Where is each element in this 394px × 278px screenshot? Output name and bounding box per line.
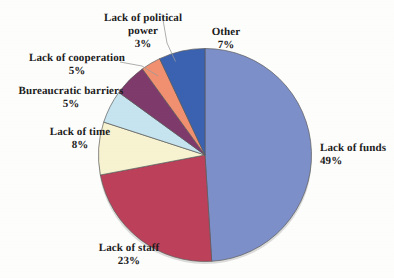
pie-slice-lack-of-funds[interactable] — [205, 49, 312, 262]
pie-chart: Lack of political power 3% Other 7% Lack… — [0, 0, 394, 278]
slice-value-time: 8% — [30, 139, 130, 152]
slice-label-funds: Lack of funds 49% — [320, 142, 394, 168]
slice-value-political-power: 3% — [88, 38, 198, 51]
pie-slices-group — [99, 49, 312, 262]
slice-value-funds: 49% — [320, 155, 394, 168]
slice-label-cooperation: Lack of cooperation 5% — [18, 52, 136, 78]
slice-label-political-power: Lack of political power 3% — [88, 12, 198, 51]
slice-value-cooperation: 5% — [18, 65, 136, 78]
slice-label-bureaucratic-barriers: Bureaucratic barriers 5% — [6, 85, 136, 111]
slice-label-political-power-line2: power — [128, 25, 158, 37]
slice-label-time-text: Lack of time — [50, 126, 110, 138]
slice-label-funds-text: Lack of funds — [320, 142, 386, 154]
slice-label-staff: Lack of staff 23% — [74, 242, 184, 268]
slice-label-other-text: Other — [212, 26, 241, 38]
slice-value-other: 7% — [196, 39, 256, 52]
slice-label-bureaucratic-barriers-text: Bureaucratic barriers — [19, 85, 124, 97]
slice-label-cooperation-text: Lack of cooperation — [29, 52, 125, 64]
slice-value-staff: 23% — [74, 255, 184, 268]
slice-label-other: Other 7% — [196, 26, 256, 52]
slice-value-bureaucratic-barriers: 5% — [6, 98, 136, 111]
slice-label-political-power-line1: Lack of political — [104, 12, 182, 24]
slice-label-time: Lack of time 8% — [30, 126, 130, 152]
slice-label-staff-text: Lack of staff — [99, 242, 160, 254]
